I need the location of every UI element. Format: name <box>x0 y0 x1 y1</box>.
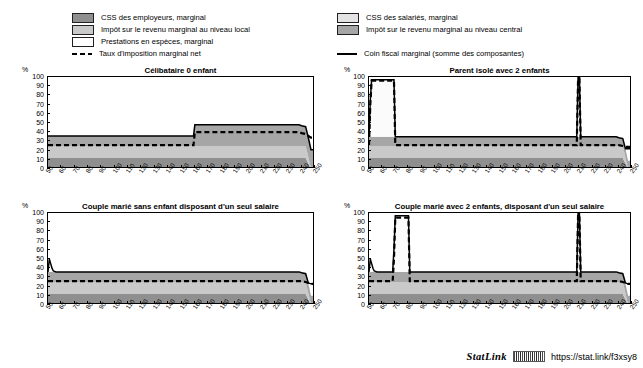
x-tick-label: 140 <box>484 298 495 310</box>
y-tick <box>47 104 50 105</box>
x-tick <box>247 165 248 168</box>
x-tick-label: 170 <box>205 298 216 310</box>
x-tick-label: 250 <box>312 298 323 310</box>
x-tick-label: 80 <box>85 165 94 174</box>
y-tick-label: 60 <box>25 109 44 116</box>
x-tick-label: 250 <box>629 298 640 310</box>
y-tick <box>368 230 371 231</box>
area-imp-t-sur-le-revenu-marginal-au-niveau-local <box>48 125 314 150</box>
x-tick-label: 120 <box>458 162 469 174</box>
y-tick <box>368 131 371 132</box>
legend-item: Coin fiscal marginal (somme des composan… <box>337 48 597 60</box>
y-tick <box>47 221 50 222</box>
y-tick <box>47 140 50 141</box>
x-tick-label: 250 <box>629 162 640 174</box>
legend-swatch-impot-central <box>337 25 359 35</box>
y-tick <box>368 249 371 250</box>
plot-area <box>368 212 631 304</box>
x-tick-label: 50 <box>45 301 54 310</box>
x-tick-label: 150 <box>179 298 190 310</box>
panel-title: Célibataire 0 enfant <box>47 66 314 75</box>
y-tick-label: 30 <box>25 137 44 144</box>
x-tick <box>274 165 275 168</box>
x-tick <box>87 165 88 168</box>
area-css-des-salari-s-marginal <box>48 282 314 304</box>
x-tick-label: 240 <box>299 162 310 174</box>
y-tick <box>47 286 50 287</box>
x-tick <box>381 165 382 168</box>
x-tick <box>473 165 474 168</box>
chart-legend: CSS des employeurs, marginal Impôt sur l… <box>72 12 572 64</box>
plot-area <box>47 212 314 304</box>
y-axis-unit: % <box>344 202 350 209</box>
y-tick-label: 80 <box>25 227 44 234</box>
x-tick <box>167 165 168 168</box>
y-tick-label: 40 <box>346 128 365 135</box>
y-tick-label: 10 <box>346 155 365 162</box>
y-tick-label: 40 <box>346 264 365 271</box>
y-tick-label: 0 <box>25 165 44 172</box>
y-tick-label: 0 <box>346 165 365 172</box>
y-tick-label: 60 <box>346 109 365 116</box>
y-tick <box>368 286 371 287</box>
x-tick-label: 70 <box>72 301 81 310</box>
y-tick-label: 70 <box>346 236 365 243</box>
x-tick <box>194 165 195 168</box>
x-tick <box>486 301 487 304</box>
area-css-des-employeurs-marginal <box>369 294 631 304</box>
x-tick <box>100 165 101 168</box>
x-tick-label: 170 <box>205 162 216 174</box>
x-tick <box>368 301 369 304</box>
x-tick <box>592 165 593 168</box>
x-tick <box>194 301 195 304</box>
plot-area <box>47 76 314 168</box>
area-css-des-salari-s-marginal <box>48 146 314 168</box>
y-tick-label: 30 <box>346 137 365 144</box>
y-tick <box>368 212 371 213</box>
x-tick-label: 230 <box>603 298 614 310</box>
legend-label: CSS des salariés, marginal <box>366 14 458 22</box>
x-tick <box>234 165 235 168</box>
x-tick <box>154 165 155 168</box>
y-tick-label: 40 <box>25 264 44 271</box>
x-tick-label: 90 <box>98 165 107 174</box>
y-tick <box>368 159 371 160</box>
x-tick-label: 140 <box>165 162 176 174</box>
y-tick <box>47 113 50 114</box>
y-tick <box>368 113 371 114</box>
y-axis-unit: % <box>22 66 28 73</box>
x-tick-label: 160 <box>192 298 203 310</box>
series-layer <box>369 213 631 304</box>
x-tick-label: 210 <box>259 298 270 310</box>
area-css-des-employeurs-marginal <box>48 294 314 304</box>
statlink-url[interactable]: https://stat.link/f3xsy8 <box>551 352 637 362</box>
x-tick <box>368 165 369 168</box>
y-tick-label: 100 <box>25 73 44 80</box>
line-taux-imposition-net <box>48 132 314 145</box>
y-tick <box>47 122 50 123</box>
y-axis-unit: % <box>22 202 28 209</box>
line-taux-imposition-net <box>369 215 631 284</box>
plot-area <box>368 76 631 168</box>
x-tick-label: 170 <box>524 162 535 174</box>
area-prestations-en-esp-ces-marginal <box>48 125 314 150</box>
x-tick <box>618 165 619 168</box>
x-tick-label: 120 <box>138 162 149 174</box>
panel-title: Couple marié avec 2 enfants, disposant d… <box>368 202 631 211</box>
x-tick <box>539 165 540 168</box>
legend-swatch-impot-local <box>72 25 94 35</box>
y-tick <box>368 295 371 296</box>
x-tick <box>394 301 395 304</box>
x-tick <box>434 165 435 168</box>
y-tick <box>368 122 371 123</box>
y-tick-label: 0 <box>346 301 365 308</box>
y-tick-label: 60 <box>25 245 44 252</box>
legend-item: Prestations en espèces, marginal <box>72 36 322 48</box>
y-tick-label: 20 <box>346 146 365 153</box>
x-tick-label: 240 <box>616 298 627 310</box>
line-taux-imposition-net <box>48 281 314 284</box>
x-tick-label: 100 <box>432 162 443 174</box>
line-coin-fiscal <box>48 125 314 150</box>
x-tick <box>74 301 75 304</box>
y-tick-label: 30 <box>25 273 44 280</box>
